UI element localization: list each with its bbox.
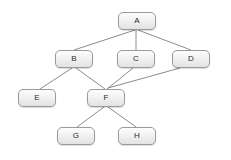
graph-edge-b-f — [76, 68, 105, 89]
graph-node-d[interactable]: D — [172, 50, 210, 68]
graph-node-f[interactable]: F — [87, 89, 125, 107]
graph-node-g[interactable]: G — [57, 127, 95, 145]
node-label-g: G — [73, 132, 79, 140]
graph-edge-c-f — [107, 68, 133, 89]
graph-node-e[interactable]: E — [18, 89, 56, 107]
edge-layer — [0, 0, 231, 160]
node-label-d: D — [188, 55, 194, 63]
graph-node-b[interactable]: B — [55, 50, 93, 68]
graph-edge-f-g — [77, 107, 104, 127]
node-label-c: C — [133, 55, 139, 63]
node-label-h: H — [134, 132, 140, 140]
graph-edge-a-b — [74, 30, 135, 50]
graph-edge-b-e — [40, 68, 72, 89]
graph-diagram: A B C D E F G H — [0, 0, 231, 160]
graph-node-a[interactable]: A — [118, 12, 156, 30]
node-label-a: A — [134, 17, 140, 25]
graph-node-c[interactable]: C — [117, 50, 155, 68]
node-label-f: F — [103, 94, 108, 102]
node-label-e: E — [34, 94, 40, 102]
graph-edge-d-f — [108, 68, 180, 88]
node-label-b: B — [71, 55, 77, 63]
graph-node-h[interactable]: H — [118, 127, 156, 145]
edges-group — [40, 30, 191, 127]
graph-edge-f-h — [108, 107, 136, 127]
graph-edge-a-d — [138, 30, 191, 50]
